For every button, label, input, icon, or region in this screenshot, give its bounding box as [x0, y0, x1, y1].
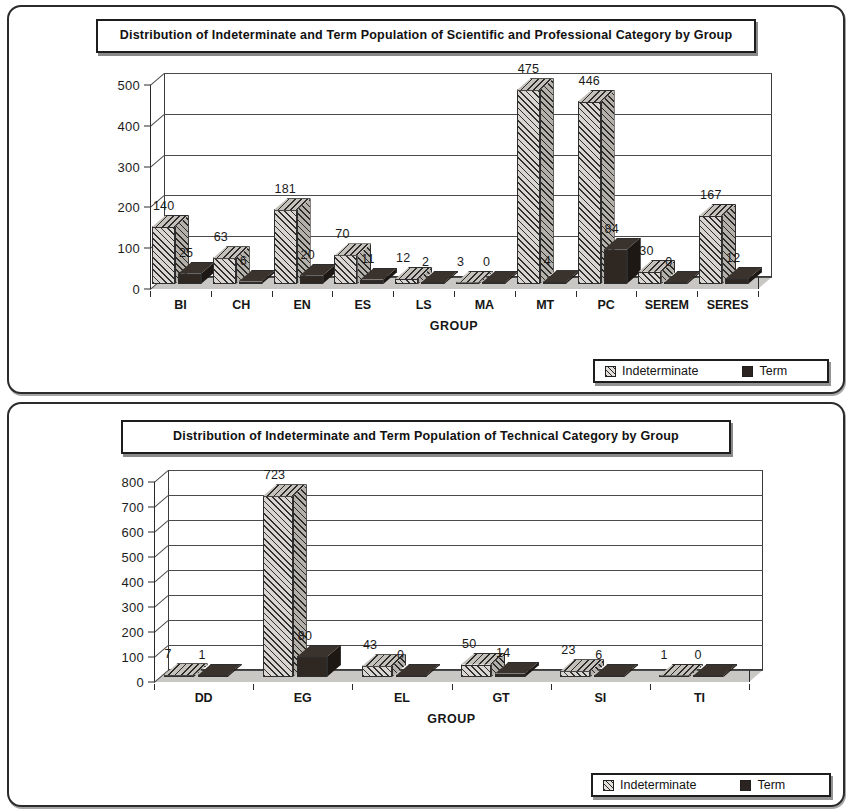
bar-front-face — [239, 282, 262, 284]
legend-label-term: Term — [759, 364, 787, 378]
x-axis-tick-mark — [551, 684, 552, 690]
gridline-depth-connector — [154, 595, 169, 608]
bar-value-label: 20 — [301, 248, 315, 262]
bar-value-label: 0 — [694, 648, 701, 662]
bar-indeterminate-eg — [263, 484, 293, 677]
x-axis-category-label: LS — [416, 298, 432, 312]
bar-term-dd — [198, 664, 228, 678]
bar-value-label: 25 — [179, 246, 193, 260]
bar-front-face — [604, 250, 627, 284]
bar-term-es — [360, 268, 383, 284]
x-axis-category-label: TI — [694, 691, 705, 705]
bar-term-seres — [725, 267, 748, 284]
bar-value-label: 11 — [361, 252, 374, 266]
bar-value-label: 43 — [363, 638, 377, 652]
legend-swatch-indeterminate-icon — [605, 366, 616, 377]
bar-indeterminate-es — [334, 243, 357, 284]
y-axis-line — [150, 85, 151, 289]
chart-title-wrapper-2: Distribution of Indeterminate and Term P… — [9, 404, 843, 454]
x-axis-tick-mark — [154, 684, 155, 690]
bar-indeterminate-serem — [638, 260, 661, 284]
chart-title-1: Distribution of Indeterminate and Term P… — [96, 19, 756, 53]
bar-front-face — [395, 279, 418, 284]
bar-front-face — [178, 274, 201, 284]
bar-front-face — [725, 279, 748, 284]
x-axis-category-label: EG — [294, 691, 312, 705]
plot-backwall — [164, 73, 772, 277]
y-axis-tick-label: 0 — [132, 282, 140, 297]
bar-value-label: 181 — [275, 182, 296, 196]
bar-side-face — [540, 78, 554, 284]
bar-value-label: 6 — [240, 254, 247, 268]
bar-front-face — [300, 276, 323, 284]
x-axis-tick-mark — [576, 291, 577, 297]
bar-front-face — [517, 90, 540, 284]
bar-front-face — [152, 227, 175, 284]
y-axis-tick-label: 200 — [121, 625, 144, 640]
chart-title-wrapper-1: Distribution of Indeterminate and Term P… — [9, 7, 843, 53]
gridline-depth-connector — [154, 620, 169, 633]
gridline-depth-connector — [150, 114, 165, 127]
bar-value-label: 2 — [422, 255, 429, 269]
bar-value-label: 12 — [396, 251, 410, 265]
x-axis-tick-mark — [332, 291, 333, 297]
gridline-depth-connector — [150, 155, 165, 168]
bar-indeterminate-el — [362, 654, 392, 677]
legend-item-indeterminate-2: Indeterminate — [603, 778, 696, 792]
bar-front-face — [360, 280, 383, 284]
bar-value-label: 23 — [561, 643, 575, 657]
bar-indeterminate-ti — [659, 664, 689, 678]
legend-label-term: Term — [757, 778, 785, 792]
x-axis-tick-mark — [454, 291, 455, 297]
x-axis-tick-mark — [758, 291, 759, 297]
x-axis-category-label: EN — [293, 298, 310, 312]
x-axis-category-label: CH — [232, 298, 250, 312]
x-axis-category-label: MT — [536, 298, 554, 312]
bar-value-label: 140 — [153, 199, 174, 213]
y-axis-tick-label: 800 — [121, 475, 144, 490]
x-axis-tick-mark — [636, 291, 637, 297]
gridline — [168, 470, 763, 471]
bar-value-label: 6 — [595, 648, 602, 662]
bar-value-label: 63 — [214, 230, 228, 244]
bar-value-label: 723 — [264, 468, 285, 482]
bar-front-face — [297, 657, 327, 677]
bar-indeterminate-mt — [517, 78, 540, 284]
gridline — [164, 114, 772, 115]
x-axis-category-label: SEREM — [645, 298, 689, 312]
legend-item-term-1: Term — [742, 364, 787, 378]
x-axis-title: GROUP — [427, 712, 475, 726]
bar-indeterminate-gt — [461, 653, 491, 678]
y-axis-tick-label: 100 — [121, 650, 144, 665]
x-axis-tick-mark — [650, 684, 651, 690]
bar-value-label: 14 — [496, 646, 510, 660]
gridline — [168, 595, 763, 596]
bar-value-label: 4 — [544, 254, 551, 268]
bar-indeterminate-ls — [395, 267, 418, 284]
bar-term-bi — [178, 262, 201, 284]
legend-label-indeterminate: Indeterminate — [622, 364, 698, 378]
bar-indeterminate-bi — [152, 215, 175, 284]
gridline — [168, 520, 763, 521]
bar-value-label: 1 — [199, 648, 206, 662]
x-axis-tick-mark — [272, 291, 273, 297]
x-axis-tick-mark — [352, 684, 353, 690]
bar-front-face — [362, 666, 392, 677]
gridline-depth-connector — [154, 570, 169, 583]
gridline — [164, 155, 772, 156]
chart-panel-scientific: Distribution of Indeterminate and Term P… — [7, 5, 845, 394]
y-axis-tick-label: 700 — [121, 500, 144, 515]
x-axis-tick-mark — [749, 684, 750, 690]
x-axis-category-label: ES — [355, 298, 371, 312]
gridline — [168, 495, 763, 496]
x-axis-category-label: EL — [394, 691, 410, 705]
bar-front-face — [263, 496, 293, 677]
bar-indeterminate-ma — [456, 271, 479, 285]
x-axis-category-label: SERES — [707, 298, 749, 312]
x-axis-tick-mark — [211, 291, 212, 297]
gridline — [168, 570, 763, 571]
bar-indeterminate-dd — [164, 663, 194, 677]
gridline — [164, 73, 772, 74]
bar-indeterminate-seres — [699, 204, 722, 284]
x-axis-category-label: DD — [195, 691, 213, 705]
